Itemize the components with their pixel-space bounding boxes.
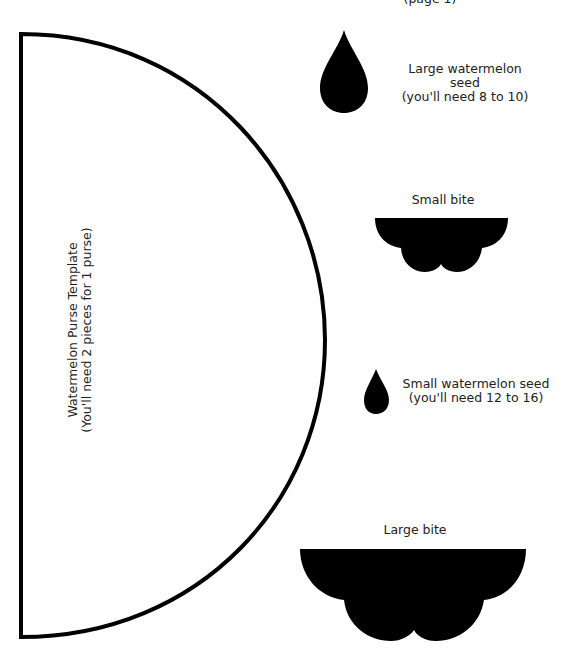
purse-template-note: (You'll need 2 pieces for 1 purse) [80, 180, 94, 480]
small-bite-shape [375, 218, 508, 272]
large-bite-shape [300, 549, 526, 641]
purse-template-title: Watermelon Purse Template [66, 180, 80, 480]
large-seed-caption: Large watermelon seed (you'll need 8 to … [380, 62, 550, 104]
large-seed-shape [320, 30, 368, 113]
small-seed-shape [364, 369, 389, 414]
large-seed-label-line1: Large watermelon [380, 62, 550, 76]
large-bite-caption: Large bite [360, 523, 470, 537]
purse-template-label: Watermelon Purse Template (You'll need 2… [66, 180, 94, 480]
large-seed-label-line3: (you'll need 8 to 10) [380, 90, 550, 104]
small-seed-caption: Small watermelon seed (you'll need 12 to… [396, 377, 556, 405]
small-bite-label: Small bite [380, 193, 506, 207]
small-seed-label-line1: Small watermelon seed [396, 377, 556, 391]
small-seed-label-line2: (you'll need 12 to 16) [396, 391, 556, 405]
large-bite-label: Large bite [360, 523, 470, 537]
large-seed-label-line2: seed [380, 76, 550, 90]
small-bite-caption: Small bite [380, 193, 506, 207]
